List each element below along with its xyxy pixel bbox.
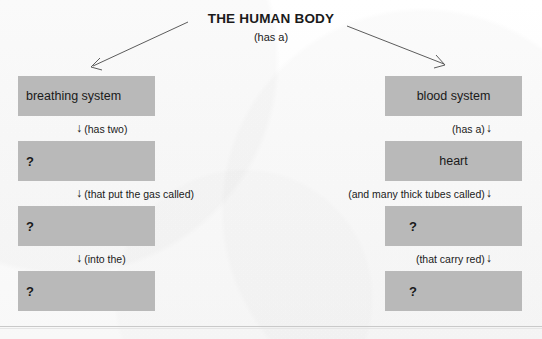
right-connector-1: (has a) ↓ — [385, 116, 522, 141]
right-box-3[interactable]: ? — [385, 206, 522, 246]
left-connector-2: ↓ (that put the gas called) — [18, 181, 155, 206]
right-connector-2-label: (and many thick tubes called) — [348, 188, 485, 200]
down-arrow-icon: ↓ — [486, 187, 492, 200]
left-branch-arrowhead — [91, 58, 102, 70]
left-connector-1: ↓ (has two) — [18, 116, 155, 141]
left-connector-2-label: (that put the gas called) — [84, 188, 194, 200]
right-box-4-label: ? — [409, 285, 417, 298]
right-branch-column: blood system (has a) ↓ heart (and many t… — [385, 76, 522, 311]
left-box-3-label: ? — [26, 220, 34, 233]
left-box-1[interactable]: breathing system — [18, 76, 155, 116]
right-box-2[interactable]: heart — [385, 141, 522, 181]
left-branch-column: breathing system ↓ (has two) ? ↓ (that p… — [18, 76, 155, 311]
left-box-2[interactable]: ? — [18, 141, 155, 181]
left-box-1-label: breathing system — [26, 90, 121, 103]
left-box-4[interactable]: ? — [18, 271, 155, 311]
right-box-1-label: blood system — [417, 90, 491, 103]
right-box-2-label: heart — [439, 155, 468, 168]
right-box-1[interactable]: blood system — [385, 76, 522, 116]
right-branch-arrowhead — [434, 55, 445, 68]
footer-divider-shadow — [0, 328, 542, 329]
left-connector-1-label: (has two) — [84, 123, 127, 135]
left-box-4-label: ? — [26, 285, 34, 298]
page-subtitle: (has a) — [0, 31, 542, 43]
left-box-3[interactable]: ? — [18, 206, 155, 246]
down-arrow-icon: ↓ — [486, 122, 492, 135]
right-connector-2: (and many thick tubes called) ↓ — [385, 181, 522, 206]
left-box-2-label: ? — [26, 155, 34, 168]
right-box-4[interactable]: ? — [385, 271, 522, 311]
down-arrow-icon: ↓ — [76, 122, 82, 135]
down-arrow-icon: ↓ — [76, 187, 82, 200]
down-arrow-icon: ↓ — [76, 252, 82, 265]
left-branch-line — [93, 22, 188, 66]
right-connector-3: (that carry red) ↓ — [385, 246, 522, 271]
page-title: THE HUMAN BODY — [0, 11, 542, 26]
left-connector-3: ↓ (into the) — [18, 246, 155, 271]
right-box-3-label: ? — [409, 220, 417, 233]
right-connector-3-label: (that carry red) — [416, 253, 485, 265]
worksheet-page: THE HUMAN BODY (has a) breathing system … — [0, 0, 542, 339]
down-arrow-icon: ↓ — [486, 252, 492, 265]
footer-divider — [0, 326, 542, 327]
right-connector-1-label: (has a) — [452, 123, 485, 135]
left-connector-3-label: (into the) — [84, 253, 125, 265]
